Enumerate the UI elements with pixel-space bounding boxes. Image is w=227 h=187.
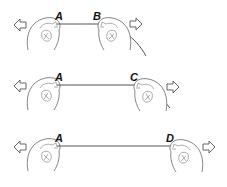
arrow-right-icon: [167, 81, 179, 93]
arrow-right-icon: [130, 18, 142, 30]
arrow-left-icon: [14, 141, 26, 153]
row-a-b: A B: [14, 10, 146, 56]
right-hand: [98, 18, 131, 50]
label-a: A: [54, 10, 63, 22]
arrow-right-icon: [203, 141, 215, 153]
label-a: A: [54, 71, 63, 83]
label-c: C: [130, 71, 139, 83]
left-hand: [27, 18, 60, 50]
row-a-c: A C: [14, 71, 179, 111]
thread-tension-diagram: A B A C A D: [0, 0, 227, 187]
right-hand: [134, 79, 167, 111]
label-b: B: [93, 10, 101, 22]
right-hand: [170, 140, 203, 172]
label-a: A: [54, 132, 63, 144]
arrow-left-icon: [14, 80, 26, 92]
label-d: D: [166, 132, 174, 144]
row-a-d: A D: [14, 132, 215, 172]
arrow-left-icon: [14, 19, 26, 31]
